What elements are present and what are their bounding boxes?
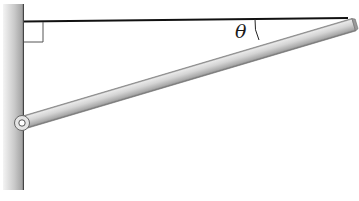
boom-rod — [20, 18, 358, 130]
boom-cable-diagram — [0, 0, 359, 201]
hinge-pin — [15, 116, 30, 131]
angle-theta-label: θ — [235, 22, 246, 41]
cable-line — [24, 18, 348, 22]
angle-arc — [255, 19, 259, 40]
right-angle-marker — [24, 22, 43, 42]
wall — [3, 4, 24, 190]
